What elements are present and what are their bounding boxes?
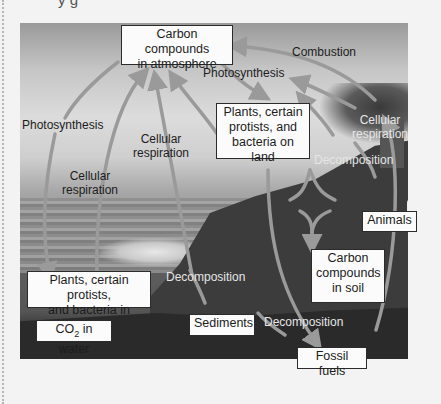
box-sediments-label: Sediments (194, 316, 250, 331)
label-cellular-respiration-mid-line2: respiration (133, 146, 189, 160)
co2-prefix: CO (56, 322, 75, 336)
label-photosynthesis-top: Photosynthesis (203, 66, 284, 80)
label-decomposition-water: Decomposition (166, 270, 245, 284)
label-cellular-respiration-mid: Cellular respiration (133, 132, 189, 160)
label-cellular-respiration-mid-line1: Cellular (133, 132, 189, 146)
label-cellular-respiration-left-line2: respiration (62, 183, 118, 197)
box-animals-label: Animals (367, 213, 412, 228)
label-combustion: Combustion (292, 45, 356, 59)
label-cellular-respiration-right: Cellular respiration (352, 113, 408, 141)
label-decomposition-fossil: Decomposition (264, 315, 343, 329)
label-cellular-respiration-right-line1: Cellular (352, 113, 408, 127)
box-water-plants-line1: Plants, certain protists, (32, 273, 146, 303)
box-animals: Animals (362, 211, 417, 232)
box-co2-water: CO2 in water (36, 320, 112, 342)
label-cellular-respiration-left-line1: Cellular (62, 169, 118, 183)
box-land-plants-line1: Plants, certain (221, 105, 305, 120)
box-fossil-fuels: Fossil fuels (297, 347, 367, 369)
box-land-plants-line2: protists, and (221, 120, 305, 135)
box-land-plants: Plants, certain protists, and bacteria o… (216, 103, 310, 159)
box-soil: Carbon compounds in soil (311, 249, 385, 303)
label-photosynthesis-left: Photosynthesis (22, 118, 103, 132)
box-atmosphere-line1: Carbon compounds (126, 27, 228, 57)
box-soil-line3: in soil (316, 281, 380, 296)
box-fossil-fuels-label: Fossil fuels (302, 349, 362, 379)
label-cellular-respiration-right-line2: respiration (352, 127, 408, 141)
box-water-plants: Plants, certain protists, and bacteria i… (27, 271, 151, 308)
box-atmosphere: Carbon compounds in atmosphere (121, 25, 233, 65)
box-sediments: Sediments (189, 314, 255, 336)
box-land-plants-line3: bacteria on land (221, 135, 305, 165)
label-cellular-respiration-left: Cellular respiration (62, 169, 118, 197)
box-soil-line1: Carbon (316, 251, 380, 266)
label-decomposition-land: Decomposition (314, 153, 393, 167)
box-soil-line2: compounds (316, 266, 380, 281)
